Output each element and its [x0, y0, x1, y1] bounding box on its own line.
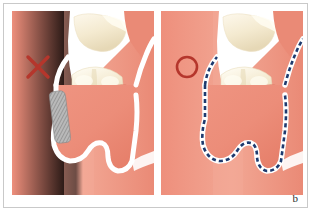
correct-technique-illustration: [161, 11, 303, 195]
figure-corner-label: b: [293, 193, 299, 204]
correct-technique-panel: [161, 11, 303, 195]
incorrect-technique-illustration: [12, 11, 154, 195]
figure-frame: b: [3, 3, 308, 208]
panel-container: [12, 11, 303, 195]
incorrect-technique-panel: [12, 11, 154, 195]
